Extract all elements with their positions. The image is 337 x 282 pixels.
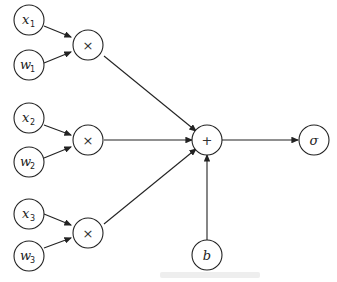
node-multiply-2: × bbox=[73, 125, 103, 155]
node-x2: x 2 bbox=[14, 103, 44, 133]
node-w1: w 1 bbox=[14, 50, 44, 80]
edge-mul1-sum bbox=[104, 56, 196, 131]
svg-text:×: × bbox=[83, 133, 94, 148]
svg-text:b: b bbox=[203, 248, 211, 263]
edge-mul3-sum bbox=[104, 149, 196, 224]
svg-text:σ: σ bbox=[310, 133, 320, 148]
node-bias: b bbox=[192, 240, 222, 270]
edge-x3-mul3 bbox=[44, 214, 71, 225]
svg-text:+: + bbox=[202, 133, 213, 148]
node-activation: σ bbox=[299, 125, 329, 155]
node-x3: x 3 bbox=[14, 199, 44, 229]
edge-w2-mul2 bbox=[44, 147, 71, 158]
svg-text:1: 1 bbox=[30, 65, 35, 74]
svg-text:2: 2 bbox=[30, 162, 35, 171]
svg-text:3: 3 bbox=[30, 214, 35, 223]
edge-x2-mul2 bbox=[44, 125, 71, 135]
svg-text:3: 3 bbox=[30, 256, 35, 265]
svg-text:×: × bbox=[83, 226, 94, 241]
node-sum: + bbox=[192, 125, 222, 155]
edge-w1-mul1 bbox=[44, 52, 71, 63]
figure-caption-faint bbox=[160, 272, 260, 278]
svg-text:x: x bbox=[22, 110, 30, 125]
edge-w3-mul3 bbox=[44, 238, 71, 248]
svg-text:x: x bbox=[22, 12, 30, 27]
node-multiply-3: × bbox=[73, 218, 103, 248]
svg-text:1: 1 bbox=[30, 20, 35, 29]
svg-text:x: x bbox=[22, 206, 30, 221]
svg-text:2: 2 bbox=[30, 118, 35, 127]
node-multiply-1: × bbox=[73, 30, 103, 60]
svg-text:×: × bbox=[83, 38, 94, 53]
node-w2: w 2 bbox=[14, 147, 44, 177]
node-w3: w 3 bbox=[14, 241, 44, 271]
edge-x1-mul1 bbox=[44, 26, 71, 37]
perceptron-diagram: x 1 w 1 x 2 w 2 x 3 w 3 × × × + bbox=[0, 0, 337, 282]
node-x1: x 1 bbox=[14, 5, 44, 35]
